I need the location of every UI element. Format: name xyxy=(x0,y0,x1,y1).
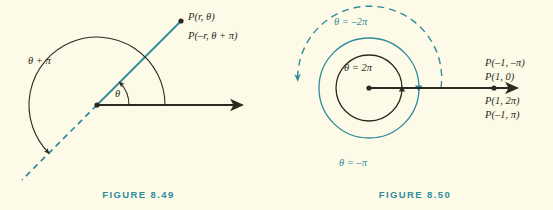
terminal-ray xyxy=(97,21,181,105)
origin-dot-right xyxy=(366,85,371,90)
point-p-dot xyxy=(178,18,183,23)
dashed-arc-neg-pi xyxy=(298,6,442,88)
theta-arc xyxy=(120,82,129,105)
opposite-ray-dashed xyxy=(22,105,97,180)
label-point-1-2pi: P(1, 2π) xyxy=(484,95,520,107)
label-point-neg1-negpi: P(–1, –π) xyxy=(484,57,525,69)
figure-8-50-caption: FIGURE 8.50 xyxy=(277,189,553,200)
label-inner-circle: θ = 2π xyxy=(344,62,373,73)
label-point-neg1-pi: P(–1, π) xyxy=(484,109,520,121)
point-p-1-0-dot xyxy=(491,85,496,90)
label-dashed-arc: θ = –π xyxy=(339,157,368,168)
figure-8-50-panel: θ = –2π θ = 2π θ = –π P(–1, –π) P(1, 0) … xyxy=(277,0,553,210)
figure-8-50-drawing: θ = –2π θ = 2π θ = –π P(–1, –π) P(1, 0) … xyxy=(277,0,553,210)
label-point-1-0: P(1, 0) xyxy=(484,71,515,83)
label-angle-outer: θ + π xyxy=(28,55,51,66)
label-point-lower: P(–r, θ + π) xyxy=(187,30,238,42)
origin-dot-left xyxy=(94,102,99,107)
figure-8-49-caption: FIGURE 8.49 xyxy=(0,189,277,200)
figure-page: P(r, θ) P(–r, θ + π) θ + π θ FIGURE 8.49 xyxy=(0,0,553,210)
figure-8-49-panel: P(r, θ) P(–r, θ + π) θ + π θ FIGURE 8.49 xyxy=(0,0,277,210)
figure-8-49-drawing: P(r, θ) P(–r, θ + π) θ + π θ xyxy=(0,0,277,210)
label-point-upper: P(r, θ) xyxy=(187,11,215,23)
label-outer-circle: θ = –2π xyxy=(334,16,368,27)
label-angle-inner: θ xyxy=(115,88,120,99)
